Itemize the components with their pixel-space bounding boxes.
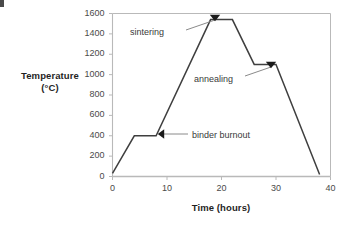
y-tick-label: 800 bbox=[65, 89, 105, 99]
x-tick-label: 40 bbox=[316, 183, 346, 193]
y-tick-label: 0 bbox=[65, 171, 105, 181]
y-tick-label: 600 bbox=[65, 109, 105, 119]
y-tick-label: 200 bbox=[65, 150, 105, 160]
data-series-group bbox=[113, 20, 320, 175]
annotation-leader-line bbox=[186, 20, 215, 30]
y-tick-label: 1600 bbox=[65, 8, 105, 18]
annotation-label-sintering: sintering bbox=[130, 27, 164, 37]
corner-artifact bbox=[0, 0, 4, 7]
x-tick-label: 30 bbox=[261, 183, 291, 193]
x-tick-label: 0 bbox=[98, 183, 128, 193]
y-tick-label: 1000 bbox=[65, 69, 105, 79]
x-tick-label: 10 bbox=[152, 183, 182, 193]
axes-group bbox=[113, 14, 331, 177]
y-tick-label: 400 bbox=[65, 130, 105, 140]
annotation-leader-line bbox=[245, 67, 271, 76]
annotation-label-annealing: annealing bbox=[194, 74, 233, 84]
annotation-label-binder-burnout: binder burnout bbox=[192, 130, 250, 140]
data-series-line bbox=[113, 20, 320, 175]
chart-figure: Temperature (°C) Time (hours) 0200400600… bbox=[0, 0, 349, 225]
y-tick-label: 1400 bbox=[65, 28, 105, 38]
y-tick-label: 1200 bbox=[65, 48, 105, 58]
x-tick-label: 20 bbox=[207, 183, 237, 193]
ticks-group bbox=[109, 14, 331, 181]
x-axis-title: Time (hours) bbox=[112, 202, 330, 214]
